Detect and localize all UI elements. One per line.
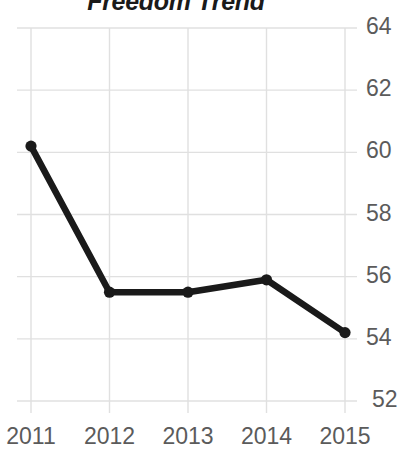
vertical-gridlines (31, 28, 345, 413)
y-axis-tick-label: 56 (366, 262, 392, 289)
x-axis-tick-label: 2013 (162, 423, 213, 450)
y-axis-tick-label: 60 (366, 137, 392, 164)
x-axis-tick-label: 2012 (84, 423, 135, 450)
y-axis-tick-label: 64 (366, 13, 392, 40)
data-point-marker (104, 287, 115, 298)
data-point-marker (261, 274, 272, 285)
chart-container: Freedom Trend 64626058565452 20112012201… (0, 0, 420, 462)
data-point-marker (25, 141, 36, 152)
y-axis-tick-label: 54 (366, 324, 392, 351)
y-axis-tick-label: 58 (366, 200, 392, 227)
x-axis-tick-label: 2014 (241, 423, 292, 450)
x-axis-tick-label: 2015 (319, 423, 370, 450)
y-axis-tick-label: 52 (372, 386, 398, 413)
line-chart-plot (0, 0, 420, 462)
y-axis-tick-label: 62 (366, 75, 392, 102)
data-point-marker (339, 327, 350, 338)
x-axis-tick-label: 2011 (6, 423, 55, 450)
data-point-marker (182, 287, 193, 298)
